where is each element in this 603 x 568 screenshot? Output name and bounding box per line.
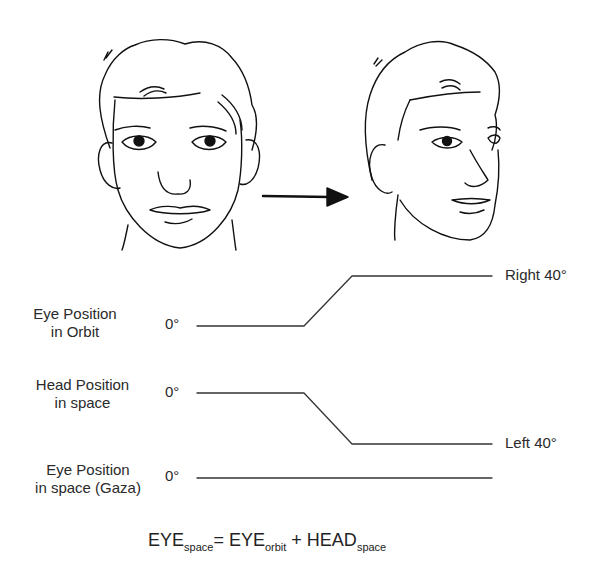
trace-head-space-label: Head Position in space [15, 376, 150, 412]
label-line-1: Eye Position [10, 305, 140, 323]
formula: EYEspace= EYEorbit + HEADspace [148, 530, 386, 553]
label-line-1: Eye Position [18, 461, 158, 479]
formula-lhs-sub: space [184, 541, 213, 553]
trace-eye-orbit-end-value: Right 40° [505, 266, 567, 283]
face-turned-illustration [365, 41, 500, 240]
trace-eye-orbit-label: Eye Position in Orbit [10, 305, 140, 341]
right-arrow-icon [263, 188, 348, 206]
trace-head-space-start-value: 0° [165, 383, 179, 400]
formula-lhs: EYE [148, 530, 184, 550]
trace-eye-orbit-start-value: 0° [165, 315, 179, 332]
label-line-2: in space (Gaza) [18, 479, 158, 497]
trace-head-space-end-value: Left 40° [505, 434, 557, 451]
formula-term1: EYE [229, 530, 265, 550]
trace-head-in-space [197, 393, 492, 444]
formula-plus: + [286, 530, 307, 550]
formula-term2-sub: space [357, 541, 386, 553]
formula-term2: HEAD [307, 530, 357, 550]
trace-eye-space-label: Eye Position in space (Gaza) [18, 461, 158, 497]
formula-equals: = [213, 530, 229, 550]
trace-eye-in-orbit [197, 276, 492, 326]
label-line-2: in Orbit [10, 323, 140, 341]
label-line-2: in space [15, 394, 150, 412]
trace-eye-space-start-value: 0° [165, 467, 179, 484]
face-front-illustration [99, 40, 260, 250]
formula-term1-sub: orbit [265, 541, 286, 553]
label-line-1: Head Position [15, 376, 150, 394]
